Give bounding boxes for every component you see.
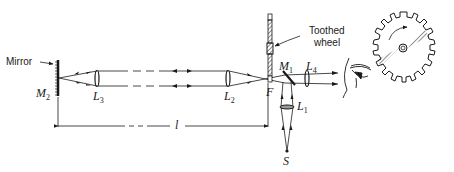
beam-arrows-vertical [281,94,294,130]
beams-l2-f [229,71,285,86]
label-l3: L3 [93,90,104,105]
lens-l3 [95,71,99,87]
label-m1: M1 [279,60,293,75]
beams-s-m1 [281,82,293,151]
label-f: F [266,86,273,98]
beam-arrows-parallel [172,69,192,88]
mirror-m2 [55,60,58,96]
label-l1: L1 [297,100,308,115]
light-source-s [285,149,288,152]
wheel-pointer-arrow [275,36,300,46]
beam-arrows-eye [332,71,338,86]
label-m2: M2 [36,87,50,102]
eye-icon [343,58,371,98]
label-toothed: Toothed [309,26,345,36]
parallel-beams [98,71,228,86]
label-mirror: Mirror [6,57,32,67]
mirror-pointer-arrow [40,62,53,64]
label-l4: L4 [306,60,317,75]
label-l2: L2 [224,90,235,105]
toothed-wheel-inset [373,12,435,82]
toothed-wheel-strip [267,14,273,82]
label-distance-l: l [175,119,178,131]
label-s: S [283,155,289,167]
distance-dimension [58,83,268,127]
beam-arrows-l2-f [247,73,252,84]
label-wheel: wheel [314,38,340,48]
lens-l2 [226,71,230,87]
lens-l1 [280,105,294,109]
fizeau-diagram [0,0,454,172]
